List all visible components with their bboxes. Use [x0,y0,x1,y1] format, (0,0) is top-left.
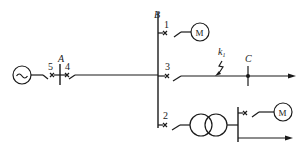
arrow-right-icon [288,74,296,79]
disconnector-blade [252,112,259,117]
breaker-3-label: 3 [165,61,170,72]
generator [13,66,31,84]
breaker-1 [163,31,167,35]
breaker-5-label: 5 [48,61,53,72]
motor-1: M [191,23,209,41]
fault-k1-icon [215,61,223,76]
single-line-diagram: 5 A 4 B 1 M 3 k1 C 2 [0,0,302,145]
transformer-1 [190,114,227,136]
breaker-4-label: 4 [65,61,70,72]
breaker-3 [165,74,169,78]
bus-a-label: A [57,53,65,64]
motor-2: M [274,103,292,121]
breaker-1-label: 1 [164,19,169,30]
disconnector-blade [173,76,181,81]
arrow-right-icon [285,136,293,141]
motor-2-label: M [279,108,287,118]
bus-b-label: B [154,9,160,20]
disconnector-blade [172,125,180,130]
breaker-2-label: 2 [163,110,168,121]
tilde-icon [17,74,28,78]
fault-k1-label: k1 [218,46,225,58]
disconnector-blade [174,32,181,37]
breaker-2 [163,123,167,127]
disconnector-blade [69,75,75,79]
breaker-5 [50,73,54,77]
point-c-label: C [245,53,252,64]
disconnector-blade [43,75,48,79]
motor-1-label: M [196,28,204,38]
breaker-secondary [243,111,247,115]
